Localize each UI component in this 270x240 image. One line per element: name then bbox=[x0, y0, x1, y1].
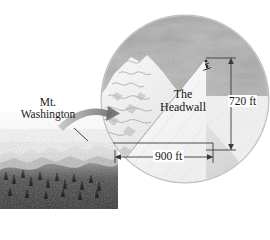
mt-washington-label-line2: Washington bbox=[6, 108, 90, 120]
headwall-label: The Headwall bbox=[148, 88, 218, 113]
headwall-label-line2: Headwall bbox=[148, 101, 218, 114]
mt-washington-label: Mt. Washington bbox=[6, 96, 90, 120]
dimension-vertical-label: 720 ft bbox=[228, 95, 257, 107]
headwall-label-line1: The bbox=[148, 88, 218, 101]
mt-washington-label-line1: Mt. bbox=[6, 96, 90, 108]
dimension-horizontal-label: 900 ft bbox=[153, 150, 184, 162]
